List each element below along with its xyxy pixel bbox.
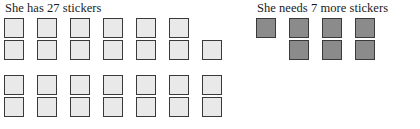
right-panel-heading: She needs 7 more stickers (256, 0, 420, 16)
sticker-square (70, 75, 90, 95)
sticker-column (136, 75, 156, 117)
sticker-square (37, 40, 57, 60)
sticker-square (4, 97, 24, 117)
sticker-square (289, 18, 309, 38)
sticker-column (37, 75, 57, 117)
sticker-square (70, 97, 90, 117)
sticker-column (289, 18, 309, 60)
sticker-square (256, 18, 276, 38)
sticker-square (103, 18, 123, 38)
sticker-column (169, 75, 189, 117)
sticker-square (202, 97, 222, 117)
sticker-square (169, 18, 189, 38)
sticker-square (37, 18, 57, 38)
sticker-square (4, 40, 24, 60)
sticker-column (4, 75, 24, 117)
sticker-column (70, 18, 90, 60)
sticker-column (103, 18, 123, 60)
sticker-square (322, 40, 342, 60)
sticker-square (169, 40, 189, 60)
sticker-square (103, 75, 123, 95)
sticker-column (202, 18, 222, 60)
sticker-square (136, 40, 156, 60)
sticker-column (169, 18, 189, 60)
right-needed-sticker-block (256, 18, 388, 60)
sticker-square (202, 75, 222, 95)
sticker-square (169, 97, 189, 117)
sticker-square (169, 75, 189, 95)
sticker-square (103, 40, 123, 60)
sticker-column (4, 18, 24, 60)
sticker-square (70, 40, 90, 60)
sticker-square (70, 18, 90, 38)
panel-has-stickers: She has 27 stickers (4, 0, 240, 16)
sticker-square (4, 18, 24, 38)
sticker-column (136, 18, 156, 60)
sticker-square (202, 40, 222, 60)
sticker-square (322, 18, 342, 38)
sticker-square (355, 40, 375, 60)
sticker-column (322, 18, 342, 60)
sticker-column (355, 18, 375, 60)
sticker-column (103, 75, 123, 117)
sticker-square (355, 18, 375, 38)
sticker-square (136, 18, 156, 38)
sticker-square (37, 97, 57, 117)
panel-needs-stickers: She needs 7 more stickers (256, 0, 420, 16)
sticker-column (37, 18, 57, 60)
sticker-square (136, 75, 156, 95)
sticker-square (4, 75, 24, 95)
sticker-column (256, 18, 276, 60)
sticker-worksheet: She has 27 stickers She needs 7 more sti… (0, 0, 420, 129)
sticker-square (289, 40, 309, 60)
sticker-column (202, 75, 222, 117)
sticker-column (70, 75, 90, 117)
sticker-square (103, 97, 123, 117)
left-lower-sticker-block (4, 75, 235, 117)
sticker-square (136, 97, 156, 117)
left-upper-sticker-block (4, 18, 235, 60)
sticker-square (37, 75, 57, 95)
left-panel-heading: She has 27 stickers (4, 0, 240, 16)
